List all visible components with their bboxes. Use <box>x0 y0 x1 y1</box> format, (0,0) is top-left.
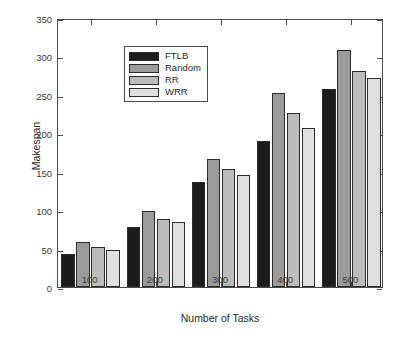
bar-ftlb-400 <box>257 141 271 287</box>
legend-label: WRR <box>165 87 188 97</box>
y-tick-mark <box>58 97 63 98</box>
y-tick-label: 200 <box>20 130 52 140</box>
bar-random-300 <box>207 159 221 287</box>
legend-label: FTLB <box>165 51 188 61</box>
y-tick-mark-right <box>377 58 382 59</box>
y-axis-title: Makespan <box>30 86 42 206</box>
x-axis-title: Number of Tasks <box>57 312 383 324</box>
legend-swatch-icon <box>129 64 159 73</box>
legend-swatch-icon <box>129 88 159 97</box>
legend-label: Random <box>165 63 201 73</box>
bar-rr-300 <box>222 169 236 287</box>
x-tick-label: 200 <box>133 274 177 285</box>
legend-item-random: Random <box>129 62 201 74</box>
y-tick-label: 100 <box>20 207 52 217</box>
y-tick-mark <box>58 251 63 252</box>
bar-ftlb-500 <box>322 89 336 287</box>
y-tick-label: 0 <box>20 284 52 294</box>
x-tick-mark-top <box>91 20 92 25</box>
y-tick-mark <box>58 212 63 213</box>
x-tick-mark-top <box>286 20 287 25</box>
legend-item-ftlb: FTLB <box>129 50 201 62</box>
y-tick-mark-right <box>377 289 382 290</box>
x-tick-label: 100 <box>68 274 112 285</box>
y-tick-label: 150 <box>20 169 52 179</box>
bar-wrr-400 <box>302 128 316 287</box>
y-tick-label: 250 <box>20 92 52 102</box>
bar-rr-500 <box>352 71 366 287</box>
x-tick-mark-top <box>156 20 157 25</box>
chart-figure: Makespan 050100150200250300350 FTLBRando… <box>0 0 402 339</box>
y-tick-mark <box>58 58 63 59</box>
x-tick-label: 300 <box>198 274 242 285</box>
legend-swatch-icon <box>129 76 159 85</box>
y-tick-label: 50 <box>20 246 52 256</box>
x-tick-label: 500 <box>328 274 372 285</box>
legend-swatch-icon <box>129 52 159 61</box>
x-tick-mark-top <box>221 20 222 25</box>
y-tick-label: 350 <box>20 15 52 25</box>
y-tick-mark <box>58 174 63 175</box>
y-tick-mark <box>58 135 63 136</box>
y-tick-label: 300 <box>20 53 52 63</box>
plot-area: 050100150200250300350 FTLBRandomRRWRR <box>57 19 383 288</box>
bar-wrr-500 <box>367 78 381 287</box>
bar-ftlb-300 <box>192 182 206 287</box>
legend: FTLBRandomRRWRR <box>124 46 208 102</box>
legend-item-wrr: WRR <box>129 86 201 98</box>
x-tick-mark-top <box>351 20 352 25</box>
bar-random-500 <box>337 50 351 287</box>
legend-item-rr: RR <box>129 74 201 86</box>
bar-wrr-300 <box>237 175 251 287</box>
y-tick-mark <box>58 289 63 290</box>
legend-label: RR <box>165 75 179 85</box>
bar-random-400 <box>272 93 286 287</box>
y-tick-mark <box>58 20 63 21</box>
x-tick-label: 400 <box>263 274 307 285</box>
y-tick-mark-right <box>377 20 382 21</box>
bar-rr-400 <box>287 113 301 287</box>
